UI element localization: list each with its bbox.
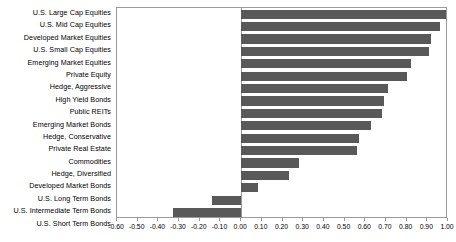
bar-row [117, 107, 446, 119]
bar-row [117, 95, 446, 107]
bar [241, 10, 447, 19]
category-label: U.S. Large Cap Equities [0, 7, 114, 19]
category-label: U.S. Small Cap Equities [0, 44, 114, 56]
x-tick-mark [364, 218, 365, 221]
x-tick-label: 0.00 [234, 222, 247, 231]
x-tick-label: 0.90 [420, 222, 433, 231]
category-label: Commodities [0, 156, 114, 168]
x-tick-mark [261, 218, 262, 221]
bar [241, 183, 258, 192]
x-tick-label: -0.20 [191, 222, 207, 231]
bar-row [117, 33, 446, 45]
bar-row [117, 194, 446, 206]
bar [241, 59, 411, 68]
category-label: U.S. Intermediate Term Bonds [0, 205, 114, 217]
bar-row [117, 82, 446, 94]
x-tick-mark [406, 218, 407, 221]
bar [241, 121, 371, 130]
bar-row [117, 144, 446, 156]
bar-row [117, 169, 446, 181]
x-tick-label: -0.30 [170, 222, 186, 231]
category-label: Private Real Estate [0, 143, 114, 155]
x-tick-label: 0.70 [378, 222, 391, 231]
x-tick-mark [426, 218, 427, 221]
category-label: Emerging Market Bonds [0, 119, 114, 131]
x-tick-label: 0.40 [316, 222, 329, 231]
x-tick-label: -0.10 [212, 222, 228, 231]
category-label: U.S. Long Term Bonds [0, 193, 114, 205]
bar-chart: U.S. Large Cap EquitiesU.S. Mid Cap Equi… [0, 0, 456, 242]
value-axis: -0.60-0.50-0.40-0.30-0.20-0.100.000.100.… [116, 218, 447, 242]
bar [241, 22, 440, 31]
bar-row [117, 45, 446, 57]
x-tick-label: 0.30 [296, 222, 309, 231]
x-tick-label: 1.00 [440, 222, 453, 231]
bar [173, 208, 241, 217]
category-label: Hedge, Aggressive [0, 81, 114, 93]
bar-row [117, 120, 446, 132]
bar-row [117, 20, 446, 32]
category-label: High Yield Bonds [0, 94, 114, 106]
x-tick-label: -0.50 [129, 222, 145, 231]
category-label: Emerging Market Equities [0, 57, 114, 69]
x-tick-mark [344, 218, 345, 221]
bar [241, 34, 431, 43]
category-axis: U.S. Large Cap EquitiesU.S. Mid Cap Equi… [0, 7, 114, 218]
category-label: U.S. Mid Cap Equities [0, 19, 114, 31]
bar [241, 72, 407, 81]
x-tick-label: 0.10 [254, 222, 267, 231]
x-tick-label: 0.80 [399, 222, 412, 231]
category-label: Hedge, Diversified [0, 168, 114, 180]
bar [241, 109, 382, 118]
category-label: Hedge, Conservative [0, 131, 114, 143]
plot-area [116, 7, 447, 218]
x-tick-mark [199, 218, 200, 221]
bar [212, 196, 241, 205]
x-tick-label: -0.60 [108, 222, 124, 231]
bars-layer [117, 8, 446, 217]
bar-row [117, 182, 446, 194]
bar [241, 96, 384, 105]
x-tick-mark [137, 218, 138, 221]
x-tick-mark [116, 218, 117, 221]
x-tick-mark [282, 218, 283, 221]
bar-row [117, 132, 446, 144]
category-label: Private Equity [0, 69, 114, 81]
x-tick-mark [157, 218, 158, 221]
bar-row [117, 70, 446, 82]
x-tick-mark [302, 218, 303, 221]
x-tick-mark [178, 218, 179, 221]
bar [241, 171, 289, 180]
x-tick-mark [219, 218, 220, 221]
bar-row [117, 8, 446, 20]
x-tick-label: 0.60 [358, 222, 371, 231]
x-tick-mark [240, 218, 241, 221]
bar-row [117, 58, 446, 70]
bar [241, 84, 388, 93]
category-label: Public REITs [0, 106, 114, 118]
x-tick-label: 0.20 [275, 222, 288, 231]
bar [241, 158, 299, 167]
category-label: U.S. Short Term Bonds [0, 218, 114, 230]
x-tick-mark [323, 218, 324, 221]
category-label: Developed Market Equities [0, 32, 114, 44]
x-tick-mark [447, 218, 448, 221]
bar [241, 134, 359, 143]
x-tick-label: 0.50 [337, 222, 350, 231]
bar [241, 146, 357, 155]
bar-row [117, 157, 446, 169]
bar-row [117, 206, 446, 218]
category-label: Developed Market Bonds [0, 180, 114, 192]
x-tick-mark [385, 218, 386, 221]
bar [241, 47, 429, 56]
x-tick-label: -0.40 [150, 222, 166, 231]
